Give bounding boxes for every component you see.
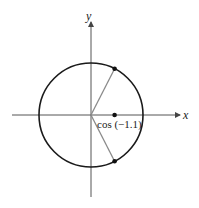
y-axis-label: y bbox=[85, 9, 92, 23]
x-axis-label: x bbox=[182, 108, 189, 122]
cos-point-dot bbox=[112, 113, 117, 118]
lower-point-dot bbox=[112, 159, 117, 164]
radius-upper bbox=[91, 69, 115, 115]
upper-point-dot bbox=[112, 66, 117, 71]
unit-circle-diagram: y x cos (−1.1) bbox=[0, 0, 199, 208]
cos-point-label: cos (−1.1) bbox=[97, 118, 142, 131]
